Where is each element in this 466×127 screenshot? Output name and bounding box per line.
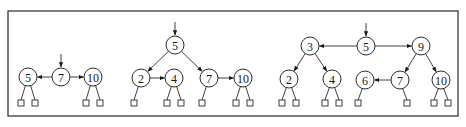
nodes-layer: 5710524710539246710: [19, 36, 450, 89]
leaf-edge: [291, 87, 296, 100]
node-label: 6: [362, 74, 368, 88]
leaf-edge: [282, 87, 287, 100]
null-leaf: [164, 100, 170, 106]
tree-node-p3-3: 3: [301, 37, 319, 55]
node-label: 2: [138, 72, 144, 86]
node-label: 9: [418, 40, 424, 54]
node-label: 7: [58, 71, 64, 85]
tree-node-p3-7: 7: [391, 71, 409, 89]
node-label: 10: [87, 71, 99, 85]
tree-node-p2-4: 4: [165, 69, 183, 87]
leaf-edge: [358, 88, 363, 100]
leaf-edge: [245, 86, 250, 100]
null-leaf: [83, 100, 89, 106]
leaf-edge: [434, 88, 439, 100]
leaf-edge: [86, 85, 91, 100]
edge-p3-3-to-p3-4: [315, 53, 327, 71]
null-leaf: [233, 100, 239, 106]
leaves-layer: [18, 85, 451, 106]
node-label: 3: [307, 40, 313, 54]
null-leaf: [178, 100, 184, 106]
null-leaf: [199, 100, 205, 106]
node-label: 2: [286, 73, 292, 87]
tree-node-p3-4: 4: [323, 70, 341, 88]
edge-p2-5-to-p2-7: [181, 51, 202, 71]
node-label: 7: [206, 72, 212, 86]
leaf-edge: [325, 87, 330, 100]
leaf-edge: [176, 86, 181, 100]
node-label: 5: [25, 71, 31, 85]
tree-node-p3-5: 5: [357, 37, 375, 55]
tree-node-p1-7: 7: [52, 68, 70, 86]
null-leaf: [336, 100, 342, 106]
null-leaf: [131, 100, 137, 106]
leaf-edge: [402, 88, 407, 100]
null-leaf: [293, 100, 299, 106]
null-leaf: [279, 100, 285, 106]
null-leaf: [445, 100, 451, 106]
tree-node-p3-10: 10: [432, 71, 450, 89]
node-label: 7: [397, 74, 403, 88]
tree-node-p2-7: 7: [200, 69, 218, 87]
edge-p3-3-to-p3-2: [294, 54, 305, 71]
tree-diagram: 5710524710539246710: [0, 0, 466, 127]
edge-p2-5-to-p2-2: [148, 51, 169, 71]
leaf-edge: [334, 87, 339, 100]
tree-node-p3-6: 6: [356, 71, 374, 89]
tree-node-p2-5: 5: [166, 36, 184, 54]
null-leaf: [32, 100, 38, 106]
tree-node-p3-2: 2: [280, 70, 298, 88]
leaf-edge: [95, 85, 100, 100]
leaf-edge: [30, 85, 35, 100]
edge-p3-9-to-p3-7: [405, 54, 416, 72]
leaf-edge: [202, 86, 207, 100]
edge-p3-9-to-p3-10: [426, 54, 437, 72]
null-leaf: [431, 100, 437, 106]
leaf-edge: [443, 88, 448, 100]
tree-node-p1-10: 10: [84, 68, 102, 86]
node-label: 4: [329, 73, 335, 87]
tree-node-p3-9: 9: [412, 37, 430, 55]
null-leaf: [322, 100, 328, 106]
node-label: 10: [435, 74, 447, 88]
tree-node-p2-10: 10: [234, 69, 252, 87]
null-leaf: [18, 100, 24, 106]
leaf-edge: [21, 85, 26, 100]
node-label: 5: [172, 39, 178, 53]
leaf-edge: [167, 86, 172, 100]
null-leaf: [247, 100, 253, 106]
leaf-edge: [236, 86, 241, 100]
null-leaf: [404, 100, 410, 106]
node-label: 4: [171, 72, 177, 86]
tree-node-p1-5: 5: [19, 68, 37, 86]
node-label: 5: [363, 40, 369, 54]
null-leaf: [97, 100, 103, 106]
tree-node-p2-2: 2: [132, 69, 150, 87]
node-label: 10: [237, 72, 249, 86]
null-leaf: [355, 100, 361, 106]
leaf-edge: [134, 86, 139, 100]
